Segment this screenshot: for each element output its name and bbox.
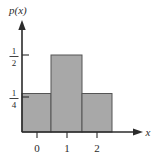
bar-2	[82, 94, 112, 133]
y-tick-quarter-denominator: 4	[12, 100, 17, 110]
y-tick-label-quarter: 1 4	[10, 88, 19, 110]
x-tick-marks	[37, 132, 97, 138]
bar-0	[22, 94, 51, 133]
x-axis-label: x	[145, 126, 151, 138]
y-tick-quarter-numerator: 1	[12, 88, 17, 98]
y-axis-label: p(x)	[8, 4, 27, 17]
y-tick-half-denominator: 2	[12, 58, 17, 68]
x-axis-arrowhead	[133, 128, 143, 135]
probability-histogram-figure: 1 2 1 4 0 1 2 p(x) x	[0, 0, 164, 160]
y-tick-label-half: 1 2	[10, 46, 19, 68]
y-axis-arrowhead	[18, 20, 25, 30]
y-tick-marks	[22, 55, 29, 97]
x-tick-label-1: 1	[64, 142, 70, 154]
x-tick-label-0: 0	[34, 142, 40, 154]
x-tick-label-2: 2	[94, 142, 100, 154]
y-tick-half-numerator: 1	[12, 46, 17, 56]
x-tick-labels: 0 1 2	[34, 142, 100, 154]
histogram-svg: 1 2 1 4 0 1 2 p(x) x	[0, 0, 164, 160]
bars-group	[22, 55, 112, 132]
bar-1	[51, 55, 82, 132]
